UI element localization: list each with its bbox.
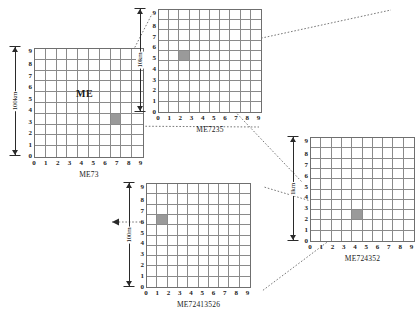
- grid-cell[interactable]: [100, 103, 111, 114]
- grid-cell[interactable]: [209, 194, 219, 204]
- grid-cell[interactable]: [67, 71, 78, 82]
- grid-cell[interactable]: [89, 103, 100, 114]
- grid-cell[interactable]: [219, 277, 229, 287]
- grid-cell[interactable]: [178, 184, 188, 194]
- grid-cells[interactable]: [34, 48, 144, 158]
- grid-cell[interactable]: [157, 277, 167, 287]
- grid-cell[interactable]: [404, 179, 414, 189]
- grid-cell[interactable]: [159, 51, 169, 61]
- grid-cell[interactable]: [342, 200, 352, 210]
- grid-cell[interactable]: [210, 30, 220, 40]
- grid-cell[interactable]: [241, 102, 251, 112]
- grid-cell[interactable]: [321, 220, 331, 230]
- grid-cell[interactable]: [169, 51, 179, 61]
- grid-cell[interactable]: [321, 148, 331, 158]
- grid-cell[interactable]: [210, 10, 220, 20]
- grid-cell[interactable]: [240, 266, 250, 276]
- grid-cell[interactable]: [229, 236, 239, 246]
- grid-cell[interactable]: [188, 256, 198, 266]
- grid-cell[interactable]: [393, 169, 403, 179]
- grid-cell[interactable]: [352, 169, 362, 179]
- grid-cell[interactable]: [200, 51, 210, 61]
- grid-cell[interactable]: [67, 125, 78, 136]
- grid-cell[interactable]: [240, 277, 250, 287]
- grid-cell[interactable]: [147, 184, 157, 194]
- grid-cell[interactable]: [251, 51, 261, 61]
- grid-cell[interactable]: [229, 194, 239, 204]
- grid-cell[interactable]: [240, 236, 250, 246]
- grid-cell[interactable]: [89, 125, 100, 136]
- grid-cell[interactable]: [100, 49, 111, 60]
- grid-cell[interactable]: [188, 236, 198, 246]
- grid-cell[interactable]: [159, 41, 169, 51]
- grid-cell[interactable]: [311, 179, 321, 189]
- grid-cell[interactable]: [169, 81, 179, 91]
- grid-cell[interactable]: [168, 215, 178, 225]
- grid-cell[interactable]: [132, 114, 143, 125]
- grid-cell[interactable]: [220, 61, 230, 71]
- grid-cell[interactable]: [147, 215, 157, 225]
- grid-cell[interactable]: [178, 277, 188, 287]
- grid-cell[interactable]: [178, 246, 188, 256]
- grid-cell[interactable]: [168, 194, 178, 204]
- grid-cell[interactable]: [219, 256, 229, 266]
- grid-cell[interactable]: [147, 246, 157, 256]
- grid-cell[interactable]: [169, 30, 179, 40]
- grid-cell[interactable]: [168, 256, 178, 266]
- grid-cells[interactable]: [310, 137, 415, 242]
- grid-cell[interactable]: [67, 135, 78, 146]
- grid-cell[interactable]: [46, 81, 57, 92]
- grid-cell[interactable]: [121, 114, 132, 125]
- grid-cell[interactable]: [373, 179, 383, 189]
- grid-cell[interactable]: [78, 135, 89, 146]
- grid-cell[interactable]: [190, 41, 200, 51]
- grid-cell[interactable]: [199, 215, 209, 225]
- grid-cell[interactable]: [147, 236, 157, 246]
- grid-cell[interactable]: [373, 200, 383, 210]
- highlighted-cell[interactable]: [352, 210, 362, 220]
- grid-cell[interactable]: [121, 103, 132, 114]
- grid-cell[interactable]: [363, 148, 373, 158]
- grid-cell[interactable]: [190, 10, 200, 20]
- grid-cell[interactable]: [178, 215, 188, 225]
- grid-cell[interactable]: [168, 277, 178, 287]
- grid-cell[interactable]: [200, 61, 210, 71]
- grid-cell[interactable]: [332, 231, 342, 241]
- grid-cell[interactable]: [404, 148, 414, 158]
- grid-cell[interactable]: [332, 190, 342, 200]
- grid-cell[interactable]: [200, 30, 210, 40]
- highlighted-cell[interactable]: [157, 215, 167, 225]
- grid-cell[interactable]: [219, 194, 229, 204]
- grid-cell[interactable]: [321, 190, 331, 200]
- grid-cell[interactable]: [157, 266, 167, 276]
- grid-cell[interactable]: [219, 246, 229, 256]
- grid-cell[interactable]: [363, 210, 373, 220]
- grid-cell[interactable]: [241, 51, 251, 61]
- grid-cell[interactable]: [229, 184, 239, 194]
- grid-cell[interactable]: [363, 220, 373, 230]
- grid-cell[interactable]: [35, 103, 46, 114]
- grid-cell[interactable]: [404, 200, 414, 210]
- grid-cell[interactable]: [121, 146, 132, 157]
- grid-cell[interactable]: [373, 210, 383, 220]
- grid-cell[interactable]: [121, 60, 132, 71]
- grid-cell[interactable]: [157, 236, 167, 246]
- grid-cell[interactable]: [159, 102, 169, 112]
- grid-cell[interactable]: [332, 200, 342, 210]
- grid-cell[interactable]: [393, 231, 403, 241]
- grid-cell[interactable]: [121, 135, 132, 146]
- grid-cell[interactable]: [373, 138, 383, 148]
- grid-cell[interactable]: [229, 205, 239, 215]
- grid-cell[interactable]: [199, 205, 209, 215]
- grid-cell[interactable]: [230, 10, 240, 20]
- grid-cell[interactable]: [219, 236, 229, 246]
- grid-cell[interactable]: [157, 225, 167, 235]
- grid-cell[interactable]: [199, 225, 209, 235]
- grid-cell[interactable]: [241, 92, 251, 102]
- grid-cell[interactable]: [188, 266, 198, 276]
- grid-cell[interactable]: [363, 159, 373, 169]
- grid-cell[interactable]: [363, 231, 373, 241]
- grid-cell[interactable]: [178, 225, 188, 235]
- grid-cell[interactable]: [199, 277, 209, 287]
- grid-cell[interactable]: [190, 102, 200, 112]
